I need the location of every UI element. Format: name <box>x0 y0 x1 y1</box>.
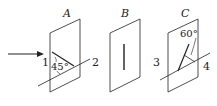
region-2-label: 2 <box>92 56 99 69</box>
plate-a-angle: 45° <box>51 61 69 72</box>
polarizer-diagram: A 45° 1 2 B 3 C 60° 4 <box>0 0 217 106</box>
region-4-label: 4 <box>203 60 210 73</box>
plate-c-label: C <box>181 7 190 20</box>
incident-light-arrow <box>8 51 44 57</box>
region-3-label: 3 <box>153 56 160 69</box>
region-1-label: 1 <box>42 56 49 69</box>
plate-b-label: B <box>120 7 129 20</box>
plate-b <box>110 19 140 92</box>
plate-c-angle: 60° <box>180 28 198 39</box>
plate-a-label: A <box>62 7 71 20</box>
